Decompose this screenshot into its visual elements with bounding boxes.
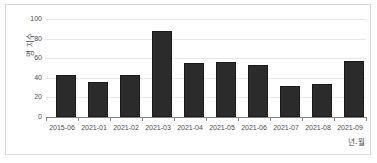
bars-layer — [46, 19, 366, 117]
y-tick-label-40: 40 — [34, 74, 42, 82]
x-tick-mark-1 — [78, 117, 79, 121]
y-tick-20: 20 — [20, 93, 42, 101]
x-tick-label-2015-06: 2015-06 — [46, 123, 78, 132]
bar-2021-01[interactable] — [88, 82, 108, 117]
x-tick-mark-3 — [142, 117, 143, 121]
y-tick-label-20: 20 — [34, 93, 42, 101]
y-tick-label-100: 100 — [30, 15, 42, 23]
bar-2021-07[interactable] — [280, 86, 300, 117]
y-tick-label-0: 0 — [38, 113, 42, 121]
x-tick-label-2021-08: 2021-08 — [302, 123, 334, 132]
x-tick-mark-8 — [302, 117, 303, 121]
x-axis-label: 년-월 — [348, 136, 365, 147]
y-tick-100: 100 — [20, 15, 42, 23]
x-tick-label-2021-01: 2021-01 — [78, 123, 110, 132]
bar-2021-03[interactable] — [152, 31, 172, 117]
x-tick-label-2021-09: 2021-09 — [334, 123, 366, 132]
x-tick-label-2021-06: 2021-06 — [238, 123, 270, 132]
x-tick-mark-7 — [270, 117, 271, 121]
bar-2021-08[interactable] — [312, 84, 332, 117]
x-tick-label-2021-07: 2021-07 — [270, 123, 302, 132]
x-tick-label-2021-05: 2021-05 — [206, 123, 238, 132]
y-tick-60: 60 — [20, 54, 42, 62]
y-tick-80: 80 — [20, 35, 42, 43]
x-tick-label-2021-03: 2021-03 — [142, 123, 174, 132]
chart-figure: 명 지수 100 80 60 40 20 0 — [0, 0, 377, 163]
y-tick-label-80: 80 — [34, 35, 42, 43]
bar-2021-09[interactable] — [344, 61, 364, 117]
y-tick-label-60: 60 — [34, 54, 42, 62]
x-tick-label-2021-02: 2021-02 — [110, 123, 142, 132]
bar-2021-04[interactable] — [184, 63, 204, 117]
y-tick-0: 0 — [20, 113, 42, 121]
x-tick-mark-9 — [334, 117, 335, 121]
y-tick-40: 40 — [20, 74, 42, 82]
x-tick-mark-6 — [238, 117, 239, 121]
bar-2021-06[interactable] — [248, 65, 268, 117]
x-tick-mark-0 — [46, 117, 47, 121]
x-tick-mark-2 — [110, 117, 111, 121]
x-tick-label-2021-04: 2021-04 — [174, 123, 206, 132]
x-tick-mark-10 — [366, 117, 367, 121]
bar-2021-02[interactable] — [120, 75, 140, 117]
bar-2015-06[interactable] — [56, 75, 76, 117]
x-tick-mark-5 — [206, 117, 207, 121]
x-tick-mark-4 — [174, 117, 175, 121]
bar-2021-05[interactable] — [216, 62, 236, 117]
